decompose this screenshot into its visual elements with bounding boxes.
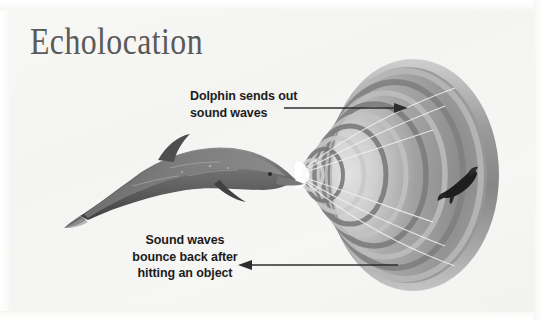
fish-target xyxy=(437,166,479,204)
arrow-returning-echo xyxy=(238,256,400,274)
figure-canvas: Dolphin sends out sound waves Sound wave… xyxy=(0,0,543,320)
page-title: Echolocation xyxy=(30,22,203,62)
paper-edge-bottom xyxy=(0,311,543,320)
paper-edge-left xyxy=(0,0,10,320)
dolphin xyxy=(62,128,304,230)
label-sound-waves-bounce-back: Sound waves bounce back after hitting an… xyxy=(124,232,246,282)
paper-edge-top xyxy=(0,0,543,10)
arrow-outgoing-sound xyxy=(282,98,408,118)
paper-edge-right xyxy=(534,0,543,320)
